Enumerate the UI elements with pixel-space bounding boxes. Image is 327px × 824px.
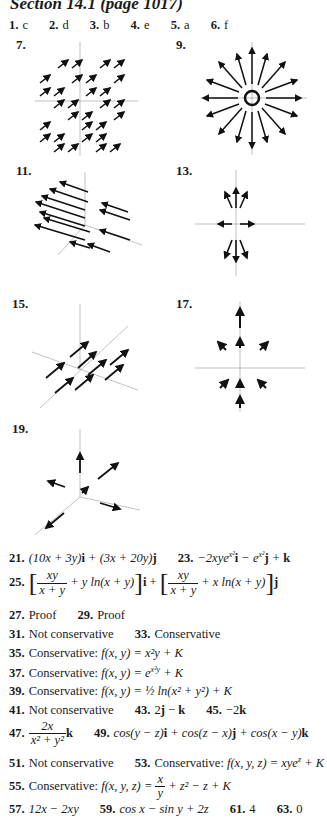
section-title: Section 14.1 (page 1017) [10,0,183,14]
figure-19-vector-field [30,425,145,535]
answer-37: 37.Conservative: f(x, y) = ex²y + K [9,665,183,681]
answers-row-51-53: 51.Not conservative 53.Conservative: f(x… [9,755,324,771]
figure-17-vector-field [190,300,310,415]
answers-row-21-23: 21.(10x + 3y)i + (3x + 20y)j 23.−2xyex²i… [9,550,308,566]
answer-49: 49.cos(y − z)i + cos(z − x)j + cos(x − y… [94,726,309,741]
answer-45: 45.−2k [206,703,246,718]
answer-23: 23.−2xyex²i − ex²j + k [178,550,290,566]
answer-3: 3.b [90,18,110,33]
figure-13-vector-field [190,168,310,278]
answers-row-47-49: 47.2xx² + y²k 49.cos(y − z)i + cos(z − x… [9,720,327,747]
figure-9-vector-field [195,40,310,158]
figure-19-label: 19. [12,421,28,437]
answer-43: 43.2j − k [135,703,185,718]
answer-5: 5.a [171,18,190,33]
figure-11-vector-field [30,170,145,260]
answer-61: 61.4 [230,802,256,817]
answer-63: 63.0 [277,802,303,817]
figure-7-label: 7. [16,37,26,53]
answer-55: 55.Conservative: f(x, y, z) = xy + z² − … [9,773,231,800]
answer-51: 51.Not conservative [9,756,114,771]
figure-15-label: 15. [12,296,28,312]
answer-25: 25.[xyx + y + y ln(x + y)]i + [xyx + y +… [9,568,278,598]
answer-41: 41.Not conservative [9,703,114,718]
answer-2: 2.d [49,18,69,33]
answer-31: 31.Not conservative [9,627,114,642]
answer-4: 4.e [131,18,150,33]
answer-47: 47.2xx² + y²k [9,720,73,747]
answers-row-1: 1.c 2.d 3.b 4.e 5.a 6.f [9,18,246,33]
answers-row-41-45: 41.Not conservative 43.2j − k 45.−2k [9,703,264,718]
answers-row-27-29: 27.Proof 29.Proof [9,608,143,623]
answer-6: 6.f [211,18,229,33]
answer-39: 39.Conservative: f(x, y) = ½ ln(x² + y²)… [9,684,232,699]
figure-9-label: 9. [176,37,186,53]
answer-1: 1.c [9,18,28,33]
answer-29: 29.Proof [78,608,125,623]
answer-53: 53.Conservative: f(x, y, z) = xyez + K [135,755,324,771]
answer-57: 57.12x − 2xy [9,802,79,817]
answer-27: 27.Proof [9,608,56,623]
answer-35: 35.Conservative: f(x, y) = x²y + K [9,646,183,661]
answer-33: 33.Conservative [135,627,221,642]
answers-row-31-33: 31.Not conservative 33.Conservative [9,627,238,642]
figure-15-vector-field [30,300,145,410]
answer-21: 21.(10x + 3y)i + (3x + 20y)j [9,551,157,566]
answer-59: 59.cos x − sin y + 2z [100,802,209,817]
figure-7-vector-field [30,38,140,158]
answers-row-57-63: 57.12x − 2xy 59.cos x − sin y + 2z 61.4 … [9,802,321,817]
